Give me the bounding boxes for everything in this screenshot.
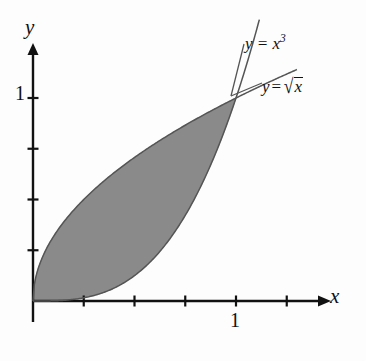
leader-line-sqrt bbox=[231, 83, 262, 96]
x-axis-label: x bbox=[330, 286, 339, 307]
y-axis-tick-label-one: 1 bbox=[15, 83, 25, 103]
curve-label-cubic-exponent: 3 bbox=[280, 32, 286, 45]
curve-label-cubic-base: y = x bbox=[245, 34, 280, 53]
curve-label-cubic: y = x3 bbox=[245, 33, 286, 52]
plot-canvas bbox=[0, 0, 366, 361]
radical-icon: √ bbox=[284, 76, 294, 97]
curve-label-sqrt-operator: = bbox=[270, 77, 284, 96]
figure-container: y x 1 1 y = x3 y=√x bbox=[0, 0, 366, 361]
curve-label-sqrt-lhs: y bbox=[262, 77, 270, 96]
y-axis-label: y bbox=[25, 17, 34, 38]
shaded-region-group bbox=[33, 98, 236, 301]
shaded-region-between-curves bbox=[33, 98, 236, 301]
x-axis-tick-label-one: 1 bbox=[230, 310, 240, 330]
curve-label-sqrt: y=√x bbox=[262, 75, 303, 96]
leader-line-cubic bbox=[231, 44, 244, 96]
curve-label-sqrt-radicand: x bbox=[294, 77, 304, 95]
y-axis-arrowhead bbox=[28, 43, 39, 55]
